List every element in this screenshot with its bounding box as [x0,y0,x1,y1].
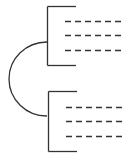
connector-arc [9,42,47,116]
bottom-placeholder-lines [66,108,125,137]
diagram-canvas [0,0,139,166]
top-bracket [48,7,77,66]
bottom-bracket [49,92,78,152]
top-placeholder-lines [65,22,125,51]
